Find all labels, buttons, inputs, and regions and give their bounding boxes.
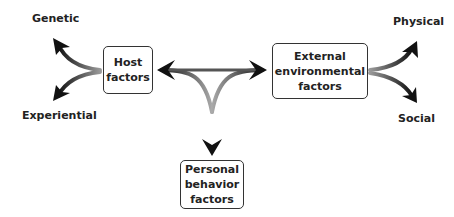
host-factors-box: Host factors — [103, 46, 153, 94]
label-social: Social — [398, 112, 435, 125]
host-branch-arrows — [58, 44, 100, 96]
label-physical: Physical — [393, 15, 444, 28]
personal-line1: Personal — [185, 162, 239, 177]
external-environmental-factors-box: External environmental factors — [272, 43, 368, 99]
personal-behavior-factors-box: Personal behavior factors — [180, 160, 244, 209]
external-branch-arrows — [370, 48, 412, 96]
label-genetic: Genetic — [32, 12, 79, 25]
host-line2: factors — [106, 70, 150, 85]
external-line2: environmental — [275, 64, 365, 79]
personal-line3: factors — [190, 192, 234, 207]
external-line3: factors — [298, 79, 342, 94]
host-line1: Host — [114, 55, 143, 70]
external-line1: External — [294, 49, 346, 64]
central-tri-arrow — [162, 70, 262, 150]
personal-line2: behavior — [185, 177, 240, 192]
label-experiential: Experiential — [22, 109, 97, 122]
